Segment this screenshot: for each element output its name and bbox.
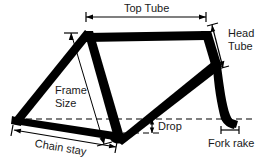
frame-tubes xyxy=(11,30,238,145)
label-frame-size-line2: Size xyxy=(55,97,87,110)
label-head-tube-line2: Tube xyxy=(228,40,254,53)
label-head-tube: Head Tube xyxy=(228,27,254,53)
down-tube-shape xyxy=(116,62,219,145)
label-drop: Drop xyxy=(158,120,182,132)
top-tube-shape xyxy=(86,31,206,42)
seat-tube-shape xyxy=(84,31,124,138)
bicycle-frame-diagram: Top Tube Head Tube Frame Size Drop Fork … xyxy=(0,0,266,162)
label-frame-size: Frame Size xyxy=(55,84,87,110)
label-top-tube: Top Tube xyxy=(124,2,169,14)
bottom-bracket-shape xyxy=(110,133,128,144)
label-head-tube-line1: Head xyxy=(228,27,254,40)
label-frame-size-line1: Frame xyxy=(55,84,87,97)
label-fork-rake: Fork rake xyxy=(208,137,254,149)
